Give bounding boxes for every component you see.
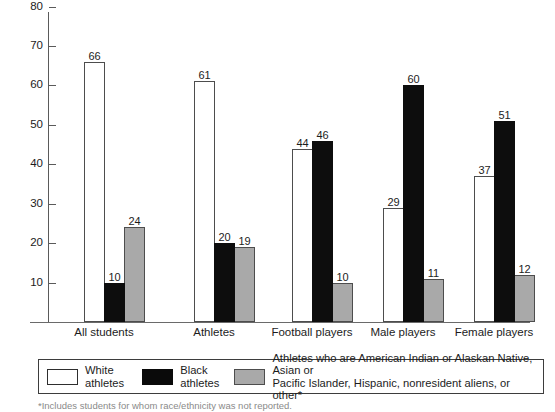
bar: 66 [84,62,105,322]
bar-value-label: 10 [336,271,348,283]
bar-value-label: 10 [108,271,120,283]
bar: 46 [312,141,333,322]
y-axis-tick-label-wrap: 20 [0,237,43,248]
bar: 29 [383,208,404,322]
y-axis-tick-label: 10 [19,277,43,288]
y-axis-tick-label: 50 [19,119,43,130]
y-axis-tick-label-wrap: 40 [0,158,43,169]
bar-value-label: 60 [407,73,419,85]
bar: 44 [292,149,313,322]
y-axis-tick [49,125,56,126]
y-axis-tick-label-wrap: 50 [0,119,43,130]
y-axis-tick-label: 70 [19,40,43,51]
bar: 11 [423,279,444,322]
bar-value-label: 11 [428,267,439,279]
legend-item-other-athletes: Athletes who are American Indian or Alas… [234,360,538,393]
y-axis-tick [49,164,56,165]
y-axis-tick [49,204,56,205]
bar-value-label: 66 [88,50,100,62]
bar: 24 [124,227,145,322]
y-axis-tick [49,46,56,47]
legend-swatch-black-icon [142,369,173,385]
legend-label-white-athletes: White athletes [85,364,124,389]
y-axis-tick-label-wrap: 10 [0,277,43,288]
legend-swatch-white-icon [47,369,78,385]
bar-value-label: 37 [478,164,490,176]
y-axis-tick-label-wrap: 80 [0,1,43,12]
bar-chart: 1020304050607080 661024All students61201… [0,0,555,352]
legend-label-other-athletes: Athletes who are American Indian or Alas… [272,352,538,402]
legend-item-white-athletes: White athletes [47,360,124,393]
bar-value-label: 51 [498,109,510,121]
bar-value-label: 46 [316,129,328,141]
bar: 19 [234,247,255,322]
chart-footnote: *Includes students for whom race/ethnici… [38,400,292,411]
bar-value-label: 24 [128,215,140,227]
y-axis-tick-label-wrap: 60 [0,79,43,90]
y-axis-tick [49,85,56,86]
y-axis-tick-label: 30 [19,198,43,209]
bar-value-label: 61 [198,69,210,81]
bar: 10 [332,283,353,322]
legend-label-black-athletes: Black athletes [180,364,219,389]
bar: 10 [104,283,125,322]
bar: 12 [514,275,535,322]
y-axis-tick-label: 40 [19,158,43,169]
y-axis-tick-label: 80 [19,1,43,12]
y-axis-tick [49,243,56,244]
y-axis-tick-label: 60 [19,79,43,90]
chart-legend: White athletes Black athletes Athletes w… [38,359,544,394]
bar: 61 [194,81,215,322]
y-axis-tick [49,283,56,284]
y-axis-line [48,12,49,323]
x-axis-category-label: All students [44,325,164,339]
bar: 51 [494,121,515,322]
legend-item-black-athletes: Black athletes [142,360,219,393]
bar-value-label: 29 [387,196,399,208]
x-axis-baseline [30,322,530,323]
y-axis-tick-label-wrap: 70 [0,40,43,51]
y-axis-tick-label-wrap: 30 [0,198,43,209]
bar-value-label: 44 [296,137,308,149]
y-axis-tick-label: 20 [19,237,43,248]
bar: 37 [474,176,495,322]
bar: 60 [403,85,424,322]
bar-value-label: 12 [518,263,530,275]
bar-value-label: 20 [218,231,230,243]
y-axis-tick [49,7,56,8]
bar-value-label: 19 [238,235,250,247]
bar: 20 [214,243,235,322]
x-axis-category-label: Female players [434,325,554,339]
legend-swatch-gray-icon [234,369,265,385]
